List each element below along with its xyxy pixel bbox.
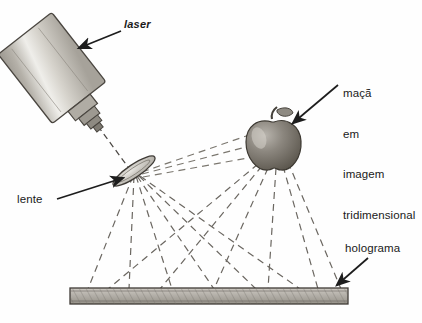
laser-device — [0, 12, 127, 150]
arrow-to-laser — [79, 31, 121, 48]
arrow-to-lens — [57, 178, 123, 199]
hologram-diagram-figure: laser lente holograma maçã em imagem tri… — [0, 0, 422, 323]
label-apple-line-3: imagem — [343, 168, 415, 182]
rays-lens-to-apple — [142, 134, 252, 177]
holographic-plate — [70, 288, 348, 304]
arrow-to-apple — [293, 85, 338, 123]
apple-3d-image — [246, 107, 301, 170]
label-laser: laser — [124, 18, 151, 32]
label-apple-line-4: tridimensional — [343, 209, 415, 223]
arrow-to-holograma — [337, 258, 368, 285]
rays-apple-to-plate — [108, 162, 341, 289]
rays-lens-to-plate — [88, 176, 300, 289]
converging-lens — [110, 152, 159, 191]
label-lente: lente — [17, 193, 42, 207]
label-apple-line-1: maçã — [343, 87, 415, 101]
label-apple-3d-image: maçã em imagem tridimensional — [343, 60, 415, 249]
label-apple-line-2: em — [343, 128, 415, 142]
